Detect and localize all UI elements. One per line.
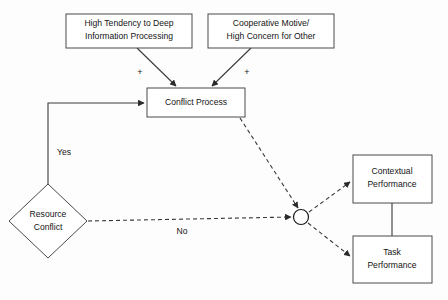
node-resource-conflict-label-line2: Conflict (34, 222, 63, 232)
edge-label-no: No (177, 226, 188, 236)
node-deep-processing-label-line2: Information Processing (85, 31, 173, 41)
edge-conflict-process-to-junction (240, 118, 298, 208)
edge-resource-conflict-no-to-junction (88, 217, 291, 221)
conflict-process-diagram: High Tendency to Deep Information Proces… (0, 0, 448, 300)
diagram-canvas-container: High Tendency to Deep Information Proces… (0, 0, 448, 300)
node-task-performance[interactable]: Task Performance (353, 236, 432, 283)
node-task-performance-label-line2: Performance (367, 260, 416, 270)
node-conflict-process-label: Conflict Process (165, 97, 227, 107)
node-cooperative-motive-label-line2: High Concern for Other (227, 31, 316, 41)
node-cooperative-motive-high-concern-for-other[interactable]: Cooperative Motive/ High Concern for Oth… (208, 14, 334, 48)
node-high-tendency-deep-information-processing[interactable]: High Tendency to Deep Information Proces… (66, 14, 192, 48)
node-resource-conflict[interactable]: Resource Conflict (9, 184, 87, 258)
node-resource-conflict-diamond (9, 184, 87, 258)
edge-deep-processing-to-conflict-process (137, 48, 176, 86)
edge-label-plus-left: + (137, 67, 142, 77)
node-conflict-process[interactable]: Conflict Process (147, 88, 245, 117)
node-resource-conflict-label-line1: Resource (30, 209, 67, 219)
node-contextual-performance-label-line1: Contextual (371, 166, 412, 176)
edge-junction-to-task-performance (308, 223, 350, 256)
edge-label-yes: Yes (57, 147, 71, 157)
node-contextual-performance[interactable]: Contextual Performance (353, 155, 432, 203)
node-cooperative-motive-label-line1: Cooperative Motive/ (233, 18, 310, 28)
edge-junction-to-contextual-performance (309, 182, 350, 212)
edge-label-plus-right: + (244, 67, 249, 77)
edge-resource-conflict-yes-to-conflict-process (48, 103, 144, 186)
node-deep-processing-label-line1: High Tendency to Deep (84, 18, 173, 28)
node-task-performance-label-line1: Task (383, 247, 401, 257)
node-contextual-performance-label-line2: Performance (367, 179, 416, 189)
junction-node-circle[interactable] (294, 210, 309, 225)
